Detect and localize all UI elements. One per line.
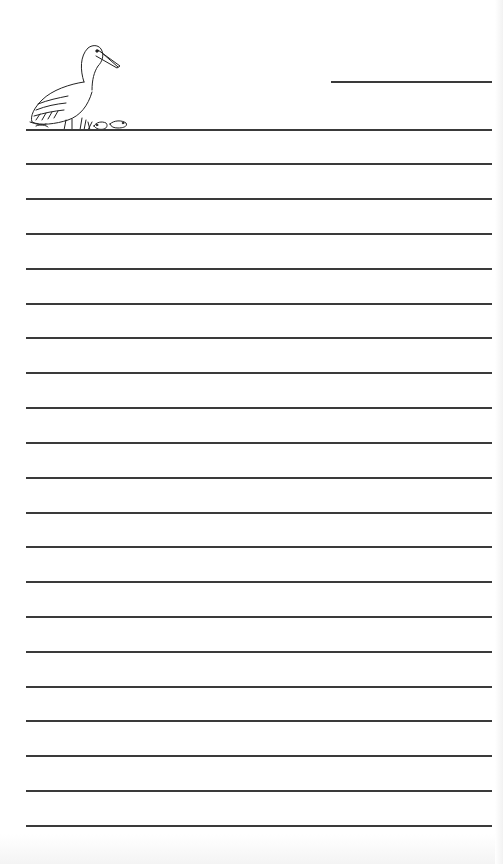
ruled-line bbox=[26, 581, 492, 583]
lined-paper-page bbox=[0, 0, 503, 864]
ruled-line bbox=[26, 790, 492, 792]
ruled-line bbox=[26, 372, 492, 374]
ruled-line bbox=[26, 233, 492, 235]
ruled-line bbox=[26, 825, 492, 827]
ruled-line bbox=[26, 303, 492, 305]
ruled-line bbox=[26, 616, 492, 618]
ruled-line bbox=[26, 720, 492, 722]
ruled-line bbox=[26, 198, 492, 200]
ruled-line bbox=[26, 407, 492, 409]
ruled-line bbox=[26, 163, 492, 165]
ruled-line bbox=[26, 268, 492, 270]
ruled-line bbox=[26, 512, 492, 514]
ruled-line bbox=[26, 686, 492, 688]
ruled-line bbox=[26, 442, 492, 444]
ruled-line bbox=[26, 477, 492, 479]
page-edge-shading bbox=[495, 0, 503, 864]
ruled-line bbox=[26, 129, 492, 131]
page-bottom-shading bbox=[0, 834, 503, 864]
name-line bbox=[331, 81, 492, 83]
pelican-illustration bbox=[22, 40, 142, 135]
ruled-line bbox=[26, 546, 492, 548]
ruled-line bbox=[26, 755, 492, 757]
ruled-line bbox=[26, 337, 492, 339]
ruled-line bbox=[26, 651, 492, 653]
